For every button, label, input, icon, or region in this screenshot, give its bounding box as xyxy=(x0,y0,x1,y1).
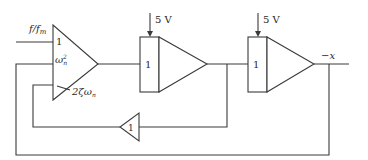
input-label: f/fm xyxy=(28,23,47,36)
output-label: −x xyxy=(321,50,335,61)
integrator-2-ic: 5 V xyxy=(263,14,281,25)
integrator-2-amp xyxy=(267,37,314,92)
integrator-1-amp xyxy=(159,37,207,92)
integrator-1-ic: 5 V xyxy=(155,14,173,25)
summer-gain-2zeta: 2ζωn xyxy=(71,86,96,98)
integrator-2-gain: 1 xyxy=(253,59,259,70)
arrow-head-icon xyxy=(255,31,261,37)
inverter-gain: 1 xyxy=(128,123,134,133)
integrator-1-gain: 1 xyxy=(145,59,151,70)
summer-gain-1: 1 xyxy=(56,36,62,47)
block-diagram: f/fm 1 ωn2 2ζωn 1 5 V 1 5 V −x 1 xyxy=(0,0,368,160)
arrow-head-icon xyxy=(147,31,153,37)
summer-gain-omega-sq: ωn2 xyxy=(55,53,67,66)
